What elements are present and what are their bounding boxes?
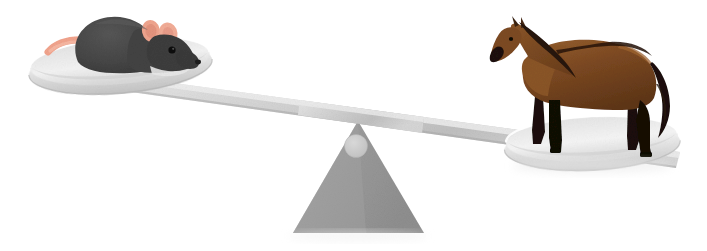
mouse-nose — [195, 60, 201, 65]
mouse-eye — [168, 46, 175, 53]
horse-hoof-front — [550, 148, 561, 153]
horse-hoof-hind — [640, 152, 652, 157]
horse-leg-front-near — [549, 100, 562, 152]
fulcrum-shadow — [288, 231, 428, 241]
right-pan-shadow — [512, 159, 672, 173]
horse-eye — [509, 37, 513, 41]
illustration-canvas: A gray see-saw style balance scale on a … — [0, 0, 707, 251]
balance-scale-illustration — [0, 0, 707, 251]
